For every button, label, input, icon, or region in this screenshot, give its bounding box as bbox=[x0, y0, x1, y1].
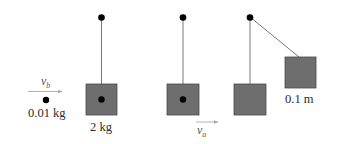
bullet-icon bbox=[43, 97, 49, 103]
stage-before-impact: 2 kg bbox=[86, 14, 117, 134]
pendulum-block-swung bbox=[285, 57, 316, 88]
pivot-icon bbox=[98, 14, 105, 21]
pivot-icon bbox=[247, 14, 254, 21]
bullet-velocity-label: vb bbox=[41, 74, 50, 90]
block-velocity-label: va bbox=[197, 123, 206, 139]
block-mass-label: 2 kg bbox=[90, 120, 113, 134]
swing-height-label: 0.1 m bbox=[285, 92, 314, 106]
embedded-bullet-icon bbox=[180, 96, 186, 102]
bullet-mass-label: 0.01 kg bbox=[28, 106, 66, 120]
stage-swing: 0.1 m bbox=[234, 14, 316, 115]
bullet-group: vb 0.01 kg bbox=[28, 74, 66, 120]
pendulum-string-swung bbox=[250, 17, 299, 57]
pendulum-block-rest bbox=[234, 84, 266, 115]
ballistic-pendulum-diagram: vb 0.01 kg 2 kg va 0.1 m bbox=[0, 0, 337, 144]
pivot-icon bbox=[180, 14, 187, 21]
embedded-bullet-icon bbox=[98, 96, 104, 102]
stage-after-impact: va bbox=[167, 14, 218, 138]
